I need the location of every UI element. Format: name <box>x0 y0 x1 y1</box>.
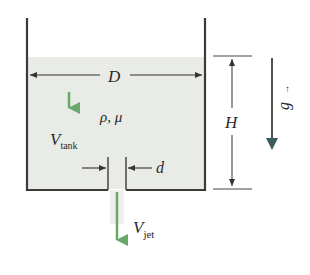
fluid-properties-label: ρ, μ <box>99 109 123 125</box>
jet-velocity-label: Vjet <box>133 218 154 240</box>
gravity-label: g <box>275 102 293 110</box>
hole-diameter-label: d <box>156 159 165 176</box>
diameter-label: D <box>107 67 121 86</box>
draining-tank-diagram: D ρ, μ Vtank d H g → Vjet <box>0 0 310 275</box>
gravity-vector-mark: → <box>281 85 291 94</box>
height-label: H <box>224 113 239 132</box>
gravity-arrow-head-icon <box>266 138 278 150</box>
